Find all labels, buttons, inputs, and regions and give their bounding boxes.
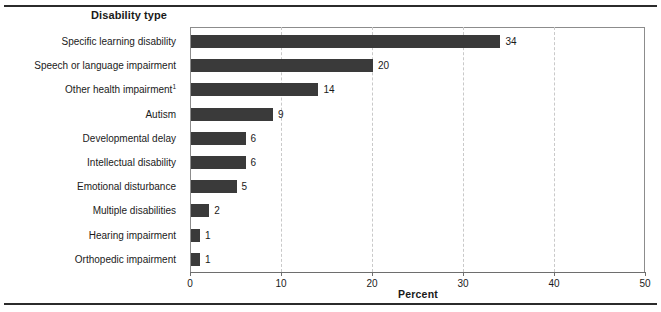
bar bbox=[191, 35, 500, 48]
x-tick-mark-40 bbox=[554, 272, 555, 276]
bar-value-label: 1 bbox=[205, 253, 211, 266]
bar bbox=[191, 59, 373, 72]
x-axis-line bbox=[190, 272, 646, 273]
category-label-text: Developmental delay bbox=[83, 133, 176, 144]
x-tick-mark-0 bbox=[190, 272, 191, 276]
bar-value-label: 5 bbox=[242, 180, 248, 193]
bar bbox=[191, 156, 246, 169]
category-label: Intellectual disability bbox=[87, 156, 176, 169]
category-label: Developmental delay bbox=[83, 132, 176, 145]
bar bbox=[191, 132, 246, 145]
category-label: Emotional disturbance bbox=[77, 180, 176, 193]
bar-value-label: 34 bbox=[505, 35, 516, 48]
category-label-text: Autism bbox=[145, 109, 176, 120]
bar-value-label: 2 bbox=[214, 204, 220, 217]
bar bbox=[191, 229, 200, 242]
bar-value-label: 9 bbox=[278, 108, 284, 121]
category-label-text: Intellectual disability bbox=[87, 157, 176, 168]
figure-top-rule bbox=[4, 5, 657, 7]
bar bbox=[191, 253, 200, 266]
category-axis-heading: Disability type bbox=[91, 9, 167, 21]
gridline-40 bbox=[554, 27, 555, 272]
x-tick-mark-30 bbox=[463, 272, 464, 276]
bar bbox=[191, 83, 318, 96]
x-tick-mark-50 bbox=[645, 272, 646, 276]
category-label: Speech or language impairment bbox=[34, 59, 176, 72]
category-label-text: Speech or language impairment bbox=[34, 60, 176, 71]
bar bbox=[191, 108, 273, 121]
category-label: Other health impairment1 bbox=[65, 83, 176, 96]
category-label-column: Specific learning disabilitySpeech or la… bbox=[0, 27, 185, 272]
footnote-marker: 1 bbox=[172, 83, 176, 90]
category-label-text: Emotional disturbance bbox=[77, 181, 176, 192]
bar-value-label: 1 bbox=[205, 229, 211, 242]
figure-bottom-rule bbox=[4, 303, 657, 305]
bar-value-label: 6 bbox=[251, 132, 257, 145]
bar-value-label: 20 bbox=[378, 59, 389, 72]
bar bbox=[191, 204, 209, 217]
gridline-30 bbox=[463, 27, 464, 272]
category-label: Multiple disabilities bbox=[93, 204, 176, 217]
category-label: Autism bbox=[145, 108, 176, 121]
category-label-text: Other health impairment bbox=[65, 84, 172, 95]
category-label-text: Specific learning disability bbox=[61, 36, 176, 47]
category-label: Hearing impairment bbox=[89, 229, 176, 242]
x-tick-mark-10 bbox=[281, 272, 282, 276]
figure-container: Disability type Specific learning disabi… bbox=[0, 0, 661, 312]
category-label-text: Multiple disabilities bbox=[93, 205, 176, 216]
bar-value-label: 6 bbox=[251, 156, 257, 169]
plot-border-top bbox=[190, 27, 645, 28]
category-label: Specific learning disability bbox=[61, 35, 176, 48]
bar-value-label: 14 bbox=[323, 83, 334, 96]
category-label: Orthopedic impairment bbox=[75, 253, 176, 266]
x-axis-title: Percent bbox=[190, 288, 646, 300]
plot-area: 3420149665211 01020304050 bbox=[190, 27, 645, 272]
category-label-text: Orthopedic impairment bbox=[75, 254, 176, 265]
bar bbox=[191, 180, 237, 193]
x-tick-mark-20 bbox=[372, 272, 373, 276]
plot-border-right bbox=[644, 27, 645, 272]
category-label-text: Hearing impairment bbox=[89, 230, 176, 241]
